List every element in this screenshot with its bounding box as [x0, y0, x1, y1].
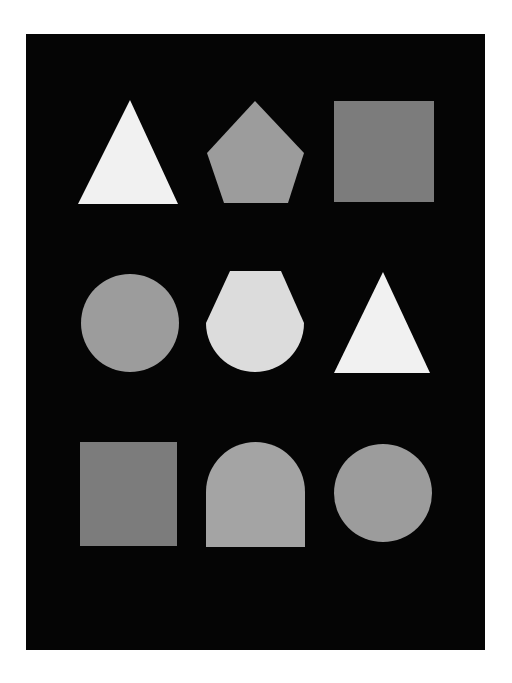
square-shape-r3c1 — [80, 442, 177, 546]
triangle-shape-r1c1 — [78, 100, 178, 204]
circle-shape-r3c3 — [334, 444, 432, 542]
arch-shape-r3c2 — [206, 442, 305, 547]
circle-shape-r2c1 — [81, 274, 179, 372]
pentagon-shape-r1c2 — [207, 101, 304, 203]
square-shape-r1c3 — [334, 101, 434, 202]
truncated-circle-shape-r2c2 — [206, 271, 304, 372]
shape-grid — [0, 0, 512, 683]
triangle-shape-r2c3 — [334, 272, 430, 373]
